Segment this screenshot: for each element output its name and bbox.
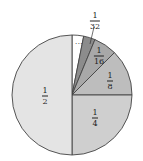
pie-graphic: [0, 0, 143, 161]
slice-label-1-16: 1 16: [94, 47, 104, 66]
numerator: 1: [92, 109, 97, 117]
remainder-label: ...: [75, 38, 83, 46]
denominator: 4: [92, 120, 97, 128]
numerator: 1: [42, 87, 47, 95]
slice-label-1-2: 1 2: [42, 87, 48, 106]
slice-label-1-4: 1 4: [92, 109, 98, 128]
pie-slice: [72, 95, 132, 155]
slice-label-1-8: 1 8: [107, 72, 113, 91]
numerator: 1: [92, 12, 97, 20]
denominator: 8: [107, 83, 112, 91]
pie-chart: ... 1 32 1 16 1 8 1 4 1 2: [0, 0, 143, 161]
denominator: 2: [42, 98, 47, 106]
numerator: 1: [96, 47, 101, 55]
numerator: 1: [107, 72, 112, 80]
denominator: 16: [94, 58, 104, 66]
denominator: 32: [90, 23, 100, 31]
slice-label-1-32: 1 32: [90, 12, 100, 31]
